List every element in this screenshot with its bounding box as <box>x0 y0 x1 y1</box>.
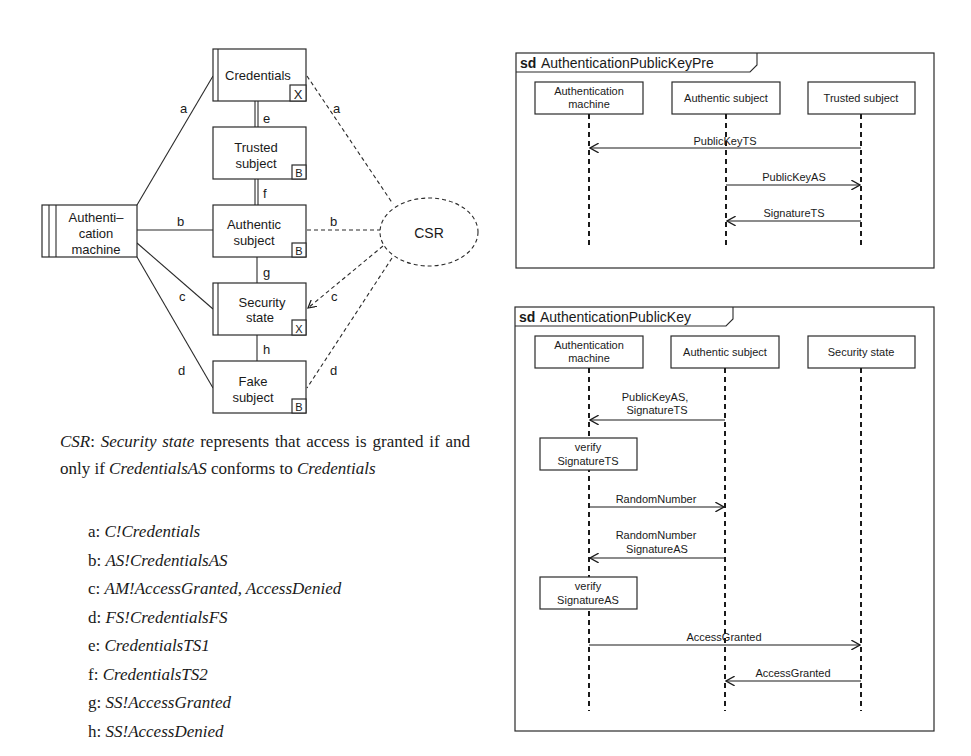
legend-key: h: <box>88 722 105 741</box>
legend-item: h: SS!AccessDenied <box>88 718 341 747</box>
sd-title: AuthenticationPublicKey <box>540 309 691 325</box>
domain-authentic-subject: Authentic subject B <box>213 205 306 257</box>
caption-sep: : <box>90 432 101 451</box>
legend-item: a: C!Credentials <box>88 518 341 547</box>
caption-credentials: Credentials <box>297 459 376 478</box>
svg-text:B: B <box>295 401 302 413</box>
sequence-diagram-pre: sd AuthenticationPublicKeyPre Authentica… <box>516 53 934 268</box>
caption-csr: CSR <box>60 432 90 451</box>
message-label: RandomNumber <box>616 493 697 505</box>
svg-text:Fake: Fake <box>239 374 268 389</box>
legend-value: SS!AccessDenied <box>105 722 223 741</box>
interface-label-f: f <box>263 186 267 201</box>
legend-key: b: <box>88 551 105 570</box>
svg-text:Authentic: Authentic <box>227 217 282 232</box>
svg-text:Security state: Security state <box>828 346 895 358</box>
sd-keyword: sd <box>519 309 535 325</box>
message-label: AccessGranted <box>755 667 830 679</box>
csr-label-d: d <box>330 363 337 378</box>
csr-label-b: b <box>330 214 337 229</box>
svg-text:machine: machine <box>71 242 120 257</box>
svg-text:Trusted subject: Trusted subject <box>824 92 899 104</box>
sequence-diagram-main: sd AuthenticationPublicKey Authenticatio… <box>515 307 934 731</box>
csr-reference-d <box>307 258 392 388</box>
legend-key: a: <box>88 522 105 541</box>
message-label: PublicKeyAS <box>762 171 826 183</box>
legend-value: CredentialsTS1 <box>105 636 210 655</box>
svg-text:Authentication: Authentication <box>554 339 624 351</box>
message-label: SignatureAS <box>626 543 688 555</box>
interface-label-c: c <box>179 289 186 304</box>
legend-item: g: SS!AccessGranted <box>88 689 341 718</box>
requirement-csr: CSR <box>380 198 478 266</box>
interface-label-d: d <box>178 363 185 378</box>
sd-title: AuthenticationPublicKeyPre <box>541 55 714 71</box>
message-label: PublicKeyTS <box>694 135 757 147</box>
csr-label-c: c <box>331 289 338 304</box>
legend-item: c: AM!AccessGranted, AccessDenied <box>88 575 341 604</box>
svg-text:Trusted: Trusted <box>234 140 278 155</box>
svg-text:X: X <box>294 87 303 102</box>
legend-value: C!Credentials <box>105 522 201 541</box>
domain-fake-subject: Fake subject B <box>213 361 306 413</box>
svg-text:SignatureTS: SignatureTS <box>557 455 618 467</box>
problem-diagram: a b c d e f g h a b c d Authenti– cation… <box>42 49 478 413</box>
message-label: AccessGranted <box>686 631 761 643</box>
interface-label-a: a <box>180 101 188 116</box>
svg-text:machine: machine <box>568 98 610 110</box>
message-label: PublicKeyAS, <box>622 391 689 403</box>
svg-text:Authenti–: Authenti– <box>69 210 125 225</box>
caption-security-state: Security state <box>101 432 195 451</box>
svg-text:Authentication: Authentication <box>554 85 624 97</box>
domain-security-state: Security state X <box>213 283 306 335</box>
svg-text:subject: subject <box>232 390 274 405</box>
svg-text:state: state <box>246 310 274 325</box>
legend-value: AM!AccessGranted, AccessDenied <box>105 579 342 598</box>
legend-key: d: <box>88 608 105 627</box>
interface-a-solid <box>137 76 213 205</box>
message-label: RandomNumber <box>616 529 697 541</box>
message-label: SignatureTS <box>763 207 824 219</box>
svg-text:Authentic subject: Authentic subject <box>684 92 768 104</box>
interface-label-b: b <box>177 214 184 229</box>
csr-constraint-c <box>308 246 383 308</box>
legend-item: b: AS!CredentialsAS <box>88 547 341 576</box>
legend-value: AS!CredentialsAS <box>105 551 227 570</box>
legend-key: g: <box>88 693 105 712</box>
svg-text:CSR: CSR <box>414 225 444 241</box>
domain-authentication-machine: Authenti– cation machine <box>42 205 137 257</box>
svg-text:subject: subject <box>233 233 275 248</box>
svg-text:cation: cation <box>79 226 114 241</box>
domain-credentials: Credentials X <box>213 49 306 102</box>
domain-trusted-subject: Trusted subject B <box>213 127 306 179</box>
csr-label-a: a <box>333 101 341 116</box>
legend-item: d: FS!CredentialsFS <box>88 604 341 633</box>
caption-text: conforms to <box>207 459 297 478</box>
caption-credentials-as: CredentialsAS <box>109 459 207 478</box>
interface-legend: a: C!Credentials b: AS!CredentialsAS c: … <box>88 518 341 746</box>
svg-text:Security: Security <box>239 295 286 310</box>
legend-key: e: <box>88 636 105 655</box>
svg-text:verify: verify <box>575 580 602 592</box>
csr-reference-a <box>307 76 393 204</box>
interface-label-e: e <box>263 111 270 126</box>
legend-key: c: <box>88 579 105 598</box>
svg-text:B: B <box>295 245 302 257</box>
svg-text:SignatureAS: SignatureAS <box>557 594 619 606</box>
svg-text:B: B <box>295 167 302 179</box>
csr-caption: CSR: Security state represents that acce… <box>60 428 470 482</box>
legend-key: f: <box>88 665 103 684</box>
svg-text:machine: machine <box>568 352 610 364</box>
message-label: SignatureTS <box>626 404 687 416</box>
legend-value: SS!AccessGranted <box>105 693 231 712</box>
interface-label-h: h <box>263 342 270 357</box>
legend-item: f: CredentialsTS2 <box>88 661 341 690</box>
svg-text:Authentic subject: Authentic subject <box>683 346 767 358</box>
svg-text:verify: verify <box>575 441 602 453</box>
legend-value: CredentialsTS2 <box>103 665 208 684</box>
svg-text:Credentials: Credentials <box>225 68 291 83</box>
svg-text:subject: subject <box>235 156 277 171</box>
legend-value: FS!CredentialsFS <box>105 608 227 627</box>
sd-keyword: sd <box>520 55 536 71</box>
interface-label-g: g <box>263 265 270 280</box>
